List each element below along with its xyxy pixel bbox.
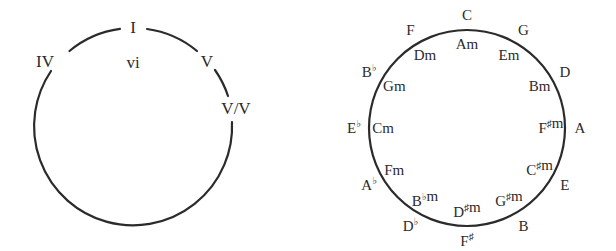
circle-of-fifths: CAmGEmDBmAF♯mEC♯mBG♯mF♯D♯mD♭B♭mA♭FmE♭CmB…	[347, 7, 586, 249]
minor-key-g-sharpm: G♯m	[495, 188, 523, 209]
minor-key-am: Am	[456, 36, 479, 52]
label-secondary-dominant: V/V	[221, 99, 251, 118]
major-key-d-flat: D♭	[403, 215, 419, 234]
arc-i-to-iv	[70, 29, 121, 51]
minor-key-gm: Gm	[383, 78, 406, 94]
major-key-g: G	[518, 22, 529, 38]
minor-key-b-flatm: B♭m	[412, 188, 439, 209]
major-key-b: B	[518, 218, 528, 234]
minor-key-em: Em	[499, 47, 520, 63]
major-key-f: F	[406, 22, 414, 38]
diagram-canvas: I IV vi V V/V CAmGEmDBmAF♯mEC♯mBG♯mF♯D♯m…	[0, 0, 616, 251]
major-key-a: A	[575, 120, 586, 136]
minor-key-c-sharpm: C♯m	[526, 157, 553, 178]
minor-key-bm: Bm	[529, 78, 551, 94]
arc-iv-to-i-bottom	[34, 71, 232, 225]
major-key-f-sharp: F♯	[460, 231, 473, 250]
minor-key-f-sharpm: F♯m	[538, 115, 563, 136]
roman-numeral-circle: I IV vi V V/V	[34, 18, 251, 226]
major-key-b-flat: B♭	[362, 61, 377, 80]
minor-key-fm: Fm	[384, 162, 404, 178]
label-tonic: I	[130, 18, 136, 37]
arc-i-to-v	[147, 29, 197, 51]
label-subdominant: IV	[36, 52, 55, 71]
minor-key-d-sharpm: D♯m	[453, 199, 481, 220]
label-dominant: V	[201, 52, 214, 71]
minor-key-cm: Cm	[372, 120, 394, 136]
major-key-e: E	[560, 177, 569, 193]
major-key-a-flat: A♭	[361, 174, 377, 193]
arc-v-to-vv	[215, 70, 228, 96]
major-key-c: C	[462, 7, 472, 23]
major-key-d: D	[559, 64, 570, 80]
minor-key-dm: Dm	[414, 47, 437, 63]
circle-of-fifths-ring	[369, 30, 565, 226]
label-relative-minor: vi	[126, 53, 140, 72]
major-key-e-flat: E♭	[347, 118, 361, 137]
